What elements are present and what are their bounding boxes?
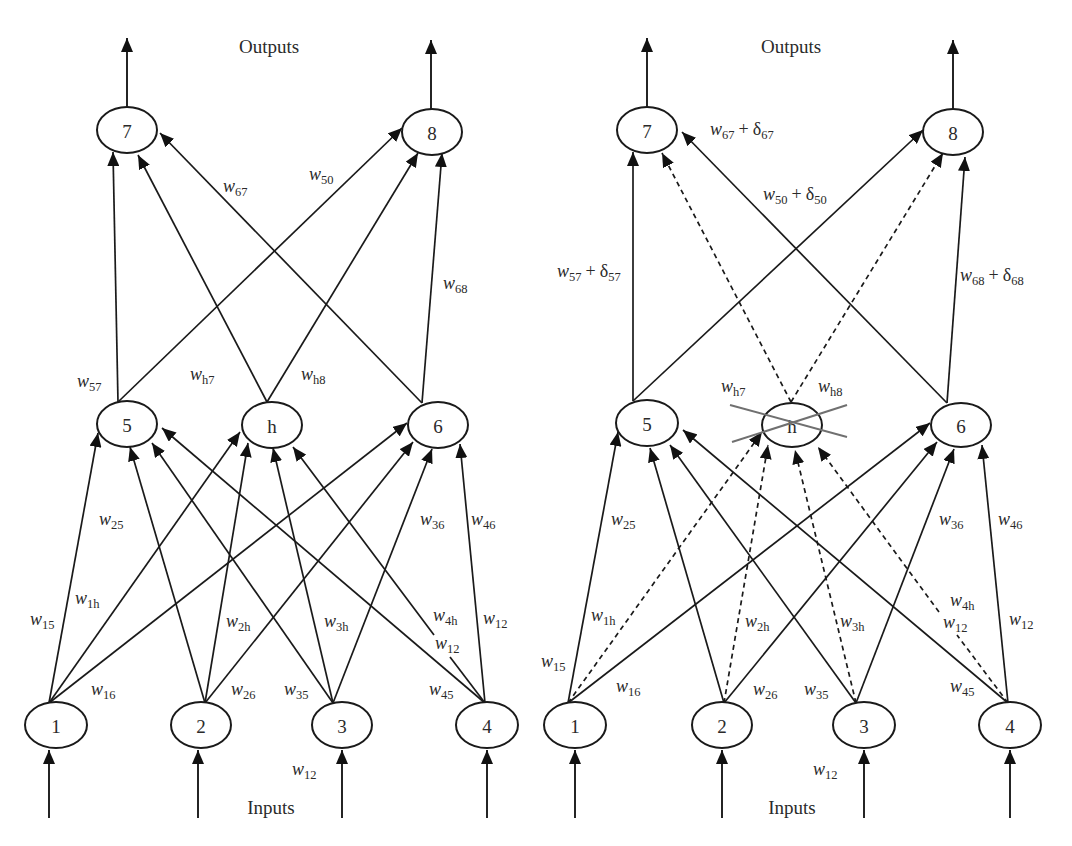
node-5: 5 <box>97 401 157 447</box>
node-6: 6 <box>408 402 468 448</box>
node-8-label: 8 <box>948 123 958 144</box>
node-6: 6 <box>931 403 991 447</box>
node-6-label: 6 <box>433 416 443 437</box>
node-8: 8 <box>923 109 983 155</box>
inputs-title: Inputs <box>247 797 295 818</box>
node-h: h <box>242 402 302 448</box>
inputs-title: Inputs <box>768 797 816 818</box>
node-3: 3 <box>833 702 895 748</box>
pruning-diagram: Outputs Inputs 7 8 5 h <box>0 0 1072 846</box>
node-1-label: 1 <box>570 716 580 737</box>
node-4-label: 4 <box>1005 716 1015 737</box>
node-h-pruned: h <box>762 403 822 447</box>
node-3-label: 3 <box>337 716 347 737</box>
node-5-label: 5 <box>122 415 132 436</box>
node-2: 2 <box>692 702 752 748</box>
background <box>0 0 1072 846</box>
node-4: 4 <box>456 702 518 748</box>
node-2-label: 2 <box>717 716 727 737</box>
node-7: 7 <box>617 107 677 153</box>
node-4: 4 <box>979 702 1041 748</box>
outputs-title: Outputs <box>239 36 299 57</box>
node-7-label: 7 <box>122 121 132 142</box>
node-8: 8 <box>402 109 462 155</box>
node-5: 5 <box>616 400 678 446</box>
node-5-label: 5 <box>642 414 652 435</box>
node-3: 3 <box>312 702 372 748</box>
node-h-label: h <box>267 416 277 437</box>
node-1-label: 1 <box>51 716 61 737</box>
node-h-label: h <box>787 416 797 437</box>
node-8-label: 8 <box>427 123 437 144</box>
node-2-label: 2 <box>196 716 206 737</box>
node-7-label: 7 <box>642 121 652 142</box>
node-3-label: 3 <box>859 716 869 737</box>
node-7: 7 <box>97 107 157 153</box>
node-6-label: 6 <box>956 416 966 437</box>
node-1: 1 <box>544 702 606 748</box>
node-1: 1 <box>25 702 87 748</box>
node-4-label: 4 <box>482 716 492 737</box>
node-2: 2 <box>171 702 231 748</box>
outputs-title: Outputs <box>761 36 821 57</box>
